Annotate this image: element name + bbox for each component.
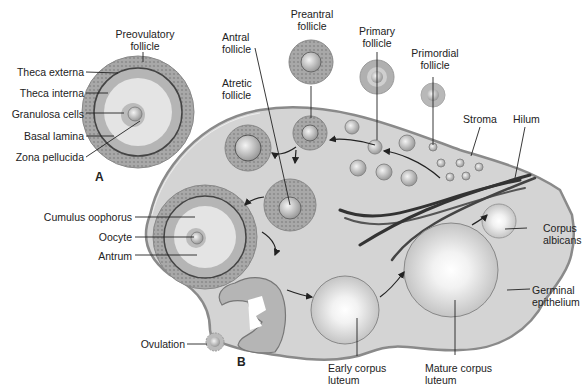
label-line: follicle — [222, 43, 251, 55]
label-hilum: Hilum — [513, 113, 540, 125]
label-line: luteum — [425, 374, 457, 386]
label-line: Early corpus — [328, 362, 386, 374]
preantral-follicle — [289, 40, 333, 84]
label-line: follicle — [222, 89, 251, 101]
label-line: follicle — [297, 20, 326, 32]
label-theca-interna: Theca interna — [0, 87, 84, 99]
label-line: Primordial — [411, 47, 458, 59]
label-line: Primary — [359, 25, 395, 37]
label-line: Preantral — [291, 8, 334, 20]
label-line: Preovulatory — [116, 28, 175, 40]
label-primordial-follicle: Primordialfollicle — [408, 47, 462, 71]
label-line: Corpus — [543, 222, 577, 234]
early-corpus-luteum — [311, 276, 379, 344]
label-cumulus-oophorus: Cumulus oophorus — [0, 211, 132, 223]
secondary-follicle — [293, 116, 327, 150]
label-line: follicle — [362, 37, 391, 49]
panel-label-b: B — [237, 356, 246, 368]
label-line: Antral — [222, 31, 249, 43]
ovary-diagram: Preovulatoryfollicle Theca externa Theca… — [0, 0, 588, 392]
label-atretic-follicle: Atreticfollicle — [222, 77, 252, 101]
label-oocyte: Oocyte — [0, 231, 132, 243]
label-corpus-albicans: Corpusalbicans — [543, 222, 582, 246]
label-antrum: Antrum — [0, 250, 132, 262]
ovulated-oocyte — [206, 333, 224, 351]
mature-corpus-luteum — [404, 223, 498, 317]
label-germinal-epithelium: Germinalepithelium — [532, 284, 580, 308]
label-line: Mature corpus — [425, 362, 492, 374]
label-granulosa-cells: Granulosa cells — [0, 108, 84, 120]
label-line: Atretic — [222, 77, 252, 89]
atretic-follicle — [225, 125, 271, 171]
label-line: albicans — [543, 234, 582, 246]
panel-label-a: A — [95, 171, 104, 183]
label-early-corpus-luteum: Early corpusluteum — [328, 362, 386, 386]
label-ovulation: Ovulation — [0, 338, 185, 350]
corpus-albicans — [482, 204, 516, 238]
label-basal-lamina: Basal lamina — [0, 130, 84, 142]
label-stroma: Stroma — [463, 113, 497, 125]
label-line: luteum — [328, 374, 360, 386]
label-theca-externa: Theca externa — [0, 66, 84, 78]
label-zona-pellucida: Zona pellucida — [0, 151, 84, 163]
label-line: Germinal — [532, 284, 575, 296]
ovary-illustration — [0, 0, 588, 392]
label-preovulatory-follicle: Preovulatoryfollicle — [115, 28, 175, 52]
label-line: epithelium — [532, 296, 580, 308]
label-line: follicle — [420, 59, 449, 71]
label-line: follicle — [130, 40, 159, 52]
label-antral-follicle: Antralfollicle — [222, 31, 251, 55]
label-preantral-follicle: Preantralfollicle — [285, 8, 339, 32]
label-mature-corpus-luteum: Mature corpusluteum — [425, 362, 492, 386]
label-primary-follicle: Primaryfollicle — [355, 25, 399, 49]
